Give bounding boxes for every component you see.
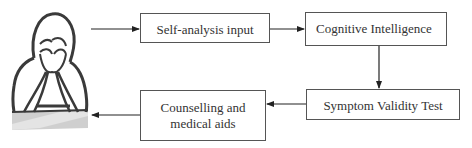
node-label: Self-analysis input bbox=[156, 22, 253, 38]
node-counselling-medical-aids: Counselling and medical aids bbox=[140, 90, 266, 141]
node-label: Symptom Validity Test bbox=[323, 98, 442, 114]
flowchart-diagram: Self-analysis input Cognitive Intelligen… bbox=[0, 0, 472, 148]
node-symptom-validity-test: Symptom Validity Test bbox=[306, 89, 460, 120]
node-label: Counselling and medical aids bbox=[161, 100, 246, 132]
node-self-analysis-input: Self-analysis input bbox=[140, 13, 270, 43]
node-cognitive-intelligence: Cognitive Intelligence bbox=[305, 12, 447, 46]
node-label: Cognitive Intelligence bbox=[316, 21, 432, 37]
